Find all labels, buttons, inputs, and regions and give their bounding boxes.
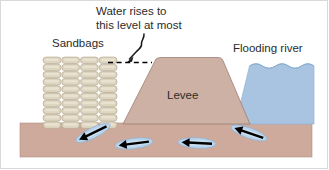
flooding-river-water <box>236 64 315 124</box>
flooding-river-label: Flooding river <box>233 42 303 54</box>
sandbag <box>43 71 61 78</box>
sandbag <box>62 107 80 114</box>
sandbag <box>80 107 98 114</box>
sandbag <box>62 115 80 122</box>
sandbag <box>99 79 117 86</box>
sandbag <box>99 115 117 122</box>
sandbag <box>62 79 80 86</box>
sandbag <box>43 107 61 114</box>
sandbag <box>43 93 61 100</box>
levee-label: Levee <box>167 89 198 101</box>
sandbag <box>99 71 117 78</box>
sandbag <box>80 79 98 86</box>
sandbag <box>62 71 80 78</box>
sandbag <box>99 93 117 100</box>
sandbag <box>99 64 117 71</box>
sandbag <box>99 100 117 107</box>
sandbag <box>62 57 80 64</box>
sandbag <box>80 86 98 93</box>
diagram-canvas: Water rises to this level at most Sandba… <box>0 0 329 170</box>
sandbag <box>62 122 80 129</box>
sandbag <box>43 115 61 122</box>
sandbag <box>43 79 61 86</box>
sandbag <box>62 86 80 93</box>
sandbag <box>80 93 98 100</box>
sandbags-label: Sandbags <box>52 37 104 49</box>
sandbag <box>80 64 98 71</box>
levee-diagram: Water rises to this level at most Sandba… <box>0 0 329 170</box>
callout-label-line1: Water rises to <box>96 5 167 17</box>
sandbag <box>62 100 80 107</box>
sandbag <box>62 64 80 71</box>
sandbag-wall <box>43 57 117 128</box>
sandbag <box>43 64 61 71</box>
sandbag <box>43 86 61 93</box>
sandbag <box>99 107 117 114</box>
sandbag <box>43 122 61 129</box>
sandbag <box>99 86 117 93</box>
sandbag <box>80 100 98 107</box>
sandbag <box>62 93 80 100</box>
callout-leader-line <box>127 34 145 63</box>
callout-label-line2: this level at most <box>96 19 182 31</box>
sandbag <box>43 57 61 64</box>
sandbag <box>43 100 61 107</box>
sandbag <box>80 57 98 64</box>
sandbag <box>80 115 98 122</box>
sandbag <box>80 71 98 78</box>
